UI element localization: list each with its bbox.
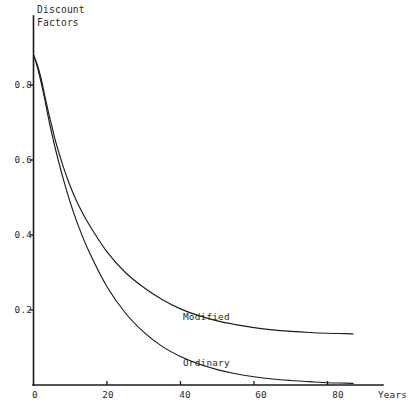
chart-figure: DiscountFactors 0.8 0.6 0.4 0.2 0 20 40 … [0, 0, 411, 409]
series-line-ordinary [34, 55, 354, 384]
series-line-modified [34, 55, 354, 334]
plot-area [0, 0, 411, 409]
axis-ticks [30, 85, 328, 385]
